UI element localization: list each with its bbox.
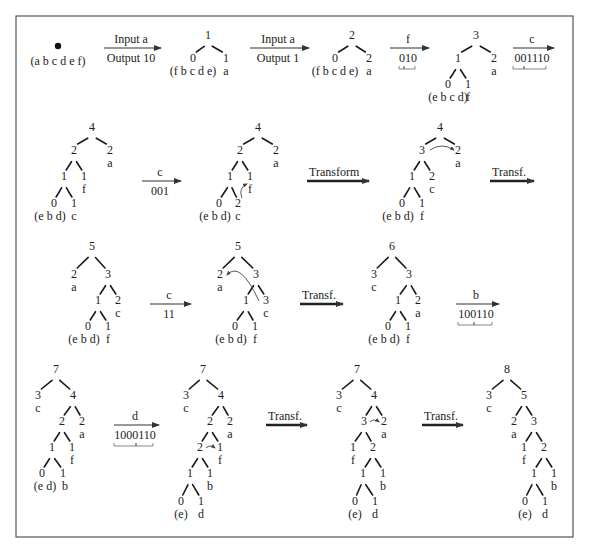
leaf-symbol-label: a — [227, 427, 233, 441]
tree-edge — [223, 257, 234, 268]
node-weight: 8 — [504, 362, 510, 376]
arrow-top-label: Transf. — [268, 409, 302, 423]
node-weight: 1 — [95, 293, 101, 307]
leaf-symbol-label: (f b c d e) — [312, 64, 359, 78]
node-weight: 2 — [273, 143, 279, 157]
tree-edge — [355, 433, 361, 441]
node-weight: 4 — [437, 120, 443, 134]
tree-t1: 101(f b c d e)a — [170, 28, 230, 78]
node-weight: 4 — [89, 120, 95, 134]
node-weight: 1 — [81, 169, 87, 183]
code-segment-bracket — [458, 322, 474, 325]
empty-tree-node-icon — [55, 43, 61, 49]
node-weight: 1 — [405, 319, 411, 333]
node-weight: 1 — [61, 169, 67, 183]
node-weight: 1 — [531, 466, 537, 480]
node-weight: 2 — [71, 267, 77, 281]
leaf-symbol-label: (e d) — [34, 479, 56, 493]
leaf-symbol-label: (e b d) — [34, 209, 65, 223]
node-weight: 2 — [107, 143, 113, 157]
tree-t10: 734221101caf(e d)b — [34, 362, 86, 493]
arrow-top-label: d — [132, 409, 138, 423]
node-weight: 2 — [511, 414, 517, 428]
tree-edge — [77, 257, 88, 268]
transition-a4: c001110 — [513, 32, 554, 69]
node-weight: 3 — [105, 267, 111, 281]
code-segment-bracket — [404, 66, 415, 69]
node-weight: 3 — [361, 414, 367, 428]
tree-edge — [212, 46, 222, 52]
tree-edge — [262, 138, 272, 144]
transition-a10: b100110 — [456, 288, 499, 325]
swap-arrow-icon — [370, 420, 379, 422]
node-weight: 3 — [406, 267, 412, 281]
node-weight: 1 — [223, 51, 229, 65]
node-weight: 0 — [399, 196, 405, 210]
leaf-symbol-label: a — [71, 280, 77, 294]
code-segment-bracket — [399, 66, 404, 69]
node-weight: 2 — [227, 414, 233, 428]
leaf-symbol-label: (a b c d e f) — [31, 54, 86, 68]
node-weight: 2 — [429, 169, 435, 183]
leaf-symbol-label: c — [336, 401, 341, 415]
node-weight: 3 — [371, 267, 377, 281]
code-segment-bracket — [474, 322, 492, 325]
leaf-symbol-label: f — [351, 453, 355, 467]
leaf-symbol-label: f — [466, 90, 470, 104]
transition-a8: c11 — [150, 288, 191, 321]
leaf-symbol-label: c — [71, 209, 76, 223]
arrow-bottom-label: 11 — [163, 307, 175, 321]
leaf-symbol-label: a — [381, 427, 387, 441]
tree-edge — [78, 138, 88, 144]
leaf-symbol-label: a — [455, 156, 461, 170]
arrow-top-label: Transf. — [492, 165, 526, 179]
node-weight: 0 — [190, 51, 196, 65]
tree-t8: 5231301ac(e b d)f — [215, 239, 269, 346]
node-weight: 4 — [255, 120, 261, 134]
node-weight: 1 — [247, 169, 253, 183]
leaf-symbol-label: f — [522, 453, 526, 467]
leaf-symbol-label: a — [273, 156, 279, 170]
node-weight: 2 — [370, 440, 376, 454]
leaf-symbol-label: f — [420, 209, 424, 223]
arrow-top-label: c — [529, 32, 534, 46]
node-weight: 2 — [491, 51, 497, 65]
node-weight: 1 — [360, 466, 366, 480]
leaf-symbol-label: c — [486, 401, 491, 415]
node-weight: 7 — [200, 362, 206, 376]
leaf-symbol-label: f — [82, 182, 86, 196]
transition-a3: f010 — [390, 32, 429, 69]
node-weight: 6 — [389, 239, 395, 253]
tree-edge — [339, 46, 348, 52]
node-weight: 3 — [35, 388, 41, 402]
leaf-symbol-label: (e b d) — [215, 332, 246, 346]
node-weight: 0 — [178, 494, 184, 508]
node-weight: 1 — [69, 440, 75, 454]
tree-edge — [244, 138, 254, 144]
node-weight: 1 — [187, 466, 193, 480]
leaf-symbol-label: a — [415, 306, 421, 320]
leaf-symbol-label: a — [366, 64, 372, 78]
transition-a13: Transf. — [422, 409, 463, 425]
tree-t2: 202(f b c d e)a — [312, 28, 373, 78]
node-weight: 3 — [336, 388, 342, 402]
node-weight: 1 — [350, 440, 356, 454]
node-weight: 3 — [183, 388, 189, 402]
leaf-symbol-label: f — [406, 332, 410, 346]
transition-a11: d1000110 — [114, 409, 159, 446]
node-weight: 1 — [380, 466, 386, 480]
leaf-symbol-label: (e b c d) — [428, 90, 468, 104]
leaf-symbol-label: f — [70, 453, 74, 467]
transition-a9: Transf. — [300, 288, 343, 304]
leaf-symbol-label: (e b d) — [68, 332, 99, 346]
tree-edge — [96, 258, 106, 269]
arrow-top-label: f — [406, 32, 410, 46]
node-labels: (a b c d e f)101(f b c d e)a202(f b c d … — [31, 28, 557, 521]
tree-edge — [492, 380, 503, 389]
tree-edge — [207, 380, 218, 389]
arrow-top-label: Transf. — [302, 288, 336, 302]
tree-edge — [480, 46, 490, 52]
node-weight: 4 — [218, 388, 224, 402]
tree-edge — [196, 46, 204, 52]
node-weight: 1 — [205, 28, 211, 42]
